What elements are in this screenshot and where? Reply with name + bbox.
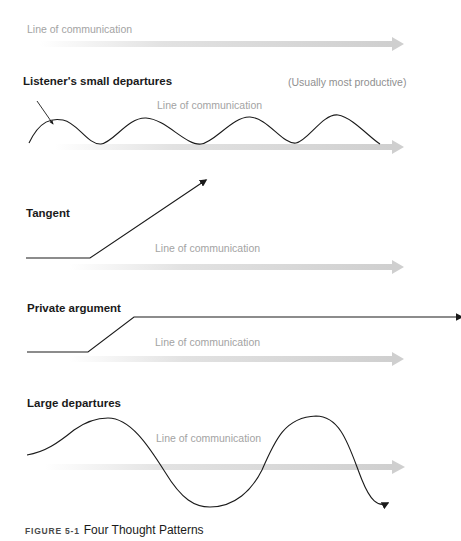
tangent-communication-arrow bbox=[70, 260, 404, 274]
figure-title: Four Thought Patterns bbox=[84, 523, 204, 537]
baseline-communication-arrow bbox=[40, 37, 404, 51]
small-departures-note: (Usually most productive) bbox=[288, 77, 406, 88]
large-departures-communication-arrow bbox=[45, 460, 405, 474]
small-departures-wave bbox=[29, 115, 380, 144]
small-departures-line-label: Line of communication bbox=[157, 100, 262, 111]
tangent-line-label: Line of communication bbox=[155, 243, 260, 254]
baseline-line-label: Line of communication bbox=[27, 24, 132, 35]
figure-caption: FIGURE 5-1Four Thought Patterns bbox=[25, 520, 204, 538]
small-departures-communication-arrow bbox=[55, 140, 404, 154]
private-argument-line-label: Line of communication bbox=[155, 337, 260, 348]
small-departures-title: Listener's small departures bbox=[23, 76, 172, 88]
figure-number: FIGURE 5-1 bbox=[25, 526, 80, 536]
large-departures-title: Large departures bbox=[27, 398, 121, 410]
private-argument-title: Private argument bbox=[27, 303, 121, 315]
private-argument-communication-arrow bbox=[70, 352, 404, 366]
large-departures-wave bbox=[27, 416, 388, 507]
large-departures-line-label: Line of communication bbox=[156, 433, 261, 444]
tangent-title: Tangent bbox=[26, 208, 70, 220]
